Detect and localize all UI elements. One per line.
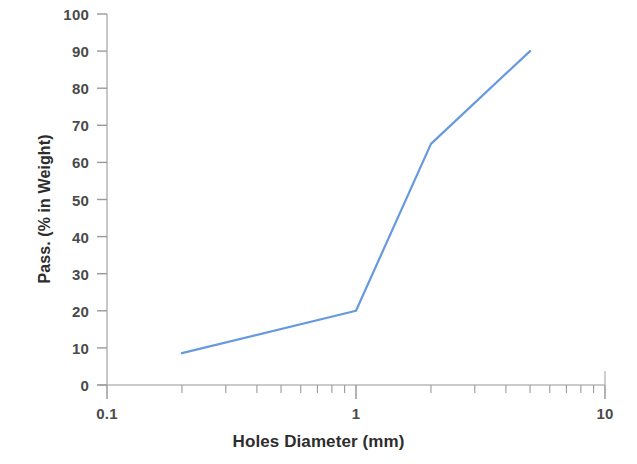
x-axis-tick-label: 1 <box>326 405 386 422</box>
y-axis-tick-label: 90 <box>29 43 89 60</box>
y-axis-tick-label: 0 <box>29 377 89 394</box>
series-group <box>182 51 530 353</box>
chart-figure: 0102030405060708090100 0.1110 Pass. (% i… <box>0 0 637 464</box>
data-series-line <box>182 51 530 353</box>
x-axis-title: Holes Diameter (mm) <box>0 432 637 452</box>
y-axis-tick-label: 10 <box>29 339 89 356</box>
axes-group <box>97 14 605 399</box>
y-axis-title: Pass. (% in Weight) <box>36 89 54 329</box>
x-axis-tick-label: 0.1 <box>77 405 137 422</box>
x-axis-tick-label: 10 <box>575 405 635 422</box>
plot-area <box>0 0 637 464</box>
y-axis-tick-label: 100 <box>29 6 89 23</box>
